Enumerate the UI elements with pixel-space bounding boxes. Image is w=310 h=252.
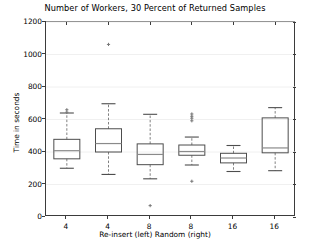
x-tick-mark xyxy=(149,216,150,219)
box-iqr xyxy=(179,145,205,155)
y-tick-mark-right xyxy=(293,184,296,185)
x-tick-mark-top xyxy=(150,22,151,25)
x-tick-mark-top xyxy=(108,22,109,25)
y-tick-label: 1200 xyxy=(2,17,42,26)
y-tick-label: 400 xyxy=(2,147,42,156)
x-tick-mark-top xyxy=(275,22,276,25)
x-tick-mark xyxy=(274,216,275,219)
x-tick-mark-top xyxy=(66,22,67,25)
y-tick-label: 800 xyxy=(2,82,42,91)
plot-area xyxy=(45,21,295,216)
boxplot-item xyxy=(137,114,163,207)
gridlines xyxy=(46,22,296,185)
boxplot-item xyxy=(262,108,288,171)
boxplot-canvas xyxy=(46,22,296,217)
y-tick-label: 0 xyxy=(2,212,42,221)
y-tick-label: 600 xyxy=(2,114,42,123)
y-axis-title: Time in seconds xyxy=(12,63,21,183)
x-tick-mark-top xyxy=(233,22,234,25)
y-tick-mark-right xyxy=(293,217,296,218)
boxplot-item xyxy=(179,112,205,182)
boxplot-item xyxy=(96,43,122,175)
y-tick-mark-right xyxy=(293,22,296,23)
x-axis-title: Re-insert (left) Random (right) xyxy=(0,230,310,239)
y-axis-tick-labels: 020040060080010001200 xyxy=(0,21,42,216)
y-tick-mark-right xyxy=(293,152,296,153)
x-tick-mark xyxy=(232,216,233,219)
y-tick-label: 200 xyxy=(2,179,42,188)
y-tick-label: 1000 xyxy=(2,49,42,58)
box-iqr xyxy=(54,139,80,159)
boxplot-item xyxy=(221,146,247,172)
box-iqr xyxy=(96,129,122,152)
x-tick-mark xyxy=(65,216,66,219)
x-tick-mark xyxy=(190,216,191,219)
y-tick-mark-right xyxy=(293,119,296,120)
y-tick-mark-right xyxy=(293,54,296,55)
chart-title: Number of Workers, 30 Percent of Returne… xyxy=(0,3,310,13)
x-tick-mark xyxy=(107,216,108,219)
x-tick-mark-top xyxy=(191,22,192,25)
chart-figure: Number of Workers, 30 Percent of Returne… xyxy=(0,0,310,252)
boxplot-item xyxy=(54,108,80,168)
y-tick-mark-right xyxy=(293,87,296,88)
